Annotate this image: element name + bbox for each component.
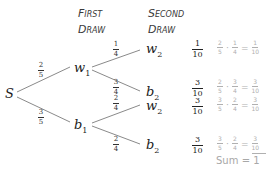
- denominator: 5: [218, 145, 222, 151]
- branch-prob-w1-w2: 14: [113, 41, 119, 58]
- equals-sign: =: [241, 82, 249, 92]
- denominator: 5: [218, 49, 222, 55]
- node-b2-bottom: b2: [146, 138, 159, 158]
- node-label: S: [5, 86, 14, 101]
- second-draw-header: Second Draw: [148, 6, 184, 38]
- outcome-prob-1: 110: [192, 40, 203, 59]
- node-b1: b1: [74, 118, 87, 138]
- first-draw-header: First Draw: [78, 6, 105, 38]
- numerator: 1: [233, 40, 237, 46]
- numerator: 2: [39, 62, 43, 69]
- calc-row-2: 25 · 34 = 310: [217, 79, 259, 94]
- node-label: w: [146, 41, 157, 56]
- denominator: 10: [192, 51, 202, 59]
- numerator: 3: [253, 79, 257, 85]
- denominator: 5: [39, 72, 43, 79]
- numerator: 3: [218, 97, 222, 103]
- dot-operator: ·: [226, 139, 229, 149]
- branch-prob-s-b1: 35: [38, 109, 44, 126]
- dot-operator: ·: [226, 43, 229, 53]
- denominator: 10: [251, 49, 259, 55]
- denominator: 10: [192, 108, 202, 116]
- node-subscript: 2: [157, 107, 162, 116]
- numerator: 3: [39, 109, 43, 116]
- sum-row: Sum = 1: [216, 155, 260, 166]
- numerator: 3: [218, 136, 222, 142]
- equals-sign: =: [241, 139, 249, 149]
- node-subscript: 1: [82, 126, 87, 135]
- header-text: Draw: [78, 22, 105, 38]
- numerator: 2: [114, 136, 118, 143]
- numerator: 2: [233, 97, 237, 103]
- branch-prob-s-w1: 25: [38, 62, 44, 79]
- numerator: 1: [253, 40, 257, 46]
- denominator: 10: [251, 145, 259, 151]
- sum-rule: [252, 153, 266, 154]
- equals-sign: =: [241, 43, 249, 53]
- denominator: 4: [233, 88, 237, 94]
- denominator: 5: [218, 106, 222, 112]
- equals-sign: =: [242, 155, 250, 166]
- denominator: 4: [114, 146, 118, 153]
- numerator: 3: [253, 97, 257, 103]
- calc-row-1: 25 · 14 = 110: [217, 40, 259, 55]
- header-text: Draw: [148, 22, 184, 38]
- node-subscript: 2: [154, 146, 159, 155]
- numerator: 1: [114, 41, 118, 48]
- node-start: S: [5, 87, 14, 101]
- dot-operator: ·: [226, 100, 229, 110]
- numerator: 2: [114, 95, 118, 102]
- numerator: 2: [218, 40, 222, 46]
- sum-label: Sum: [216, 155, 238, 166]
- node-w1: w1: [74, 61, 90, 81]
- denominator: 10: [251, 106, 259, 112]
- outcome-prob-4: 310: [192, 136, 203, 155]
- dot-operator: ·: [226, 82, 229, 92]
- numerator: 3: [233, 79, 237, 85]
- denominator: 5: [39, 119, 43, 126]
- sum-value: 1: [253, 155, 259, 166]
- equals-sign: =: [241, 100, 249, 110]
- node-subscript: 2: [157, 50, 162, 59]
- numerator: 3: [195, 136, 200, 144]
- node-subscript: 1: [85, 69, 90, 78]
- numerator: 3: [114, 79, 118, 86]
- calc-row-3: 35 · 24 = 310: [217, 97, 259, 112]
- node-label: w: [74, 60, 85, 75]
- node-w2-top: w2: [146, 42, 162, 62]
- header-text: First: [78, 6, 105, 22]
- numerator: 1: [195, 40, 200, 48]
- denominator: 4: [114, 105, 118, 112]
- denominator: 4: [233, 106, 237, 112]
- denominator: 10: [192, 147, 202, 155]
- numerator: 3: [195, 97, 200, 105]
- node-w2-bottom: w2: [146, 99, 162, 119]
- branch-prob-b1-b2: 24: [113, 136, 119, 153]
- numerator: 3: [195, 79, 200, 87]
- denominator: 4: [114, 51, 118, 58]
- header-text: Second: [148, 6, 184, 22]
- outcome-prob-3: 310: [192, 97, 203, 116]
- numerator: 2: [218, 79, 222, 85]
- denominator: 4: [233, 145, 237, 151]
- node-label: w: [146, 98, 157, 113]
- branch-prob-b1-w2: 24: [113, 95, 119, 112]
- calc-row-4: 35 · 24 = 310: [217, 136, 259, 151]
- numerator: 3: [253, 136, 257, 142]
- numerator: 2: [233, 136, 237, 142]
- denominator: 10: [251, 88, 259, 94]
- denominator: 4: [233, 49, 237, 55]
- denominator: 5: [218, 88, 222, 94]
